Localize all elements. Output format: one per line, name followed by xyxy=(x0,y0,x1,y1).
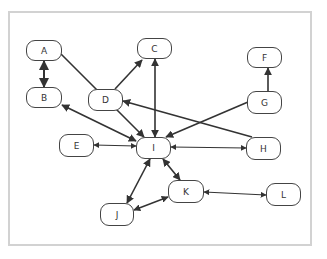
node-b[interactable]: B xyxy=(26,87,62,108)
node-e[interactable]: E xyxy=(59,134,94,157)
node-d[interactable]: D xyxy=(88,89,123,111)
node-label: L xyxy=(281,190,286,200)
edge-i-k xyxy=(163,159,180,180)
node-label: I xyxy=(152,143,155,153)
edge-i-h xyxy=(171,147,246,148)
edge-d-c xyxy=(115,60,142,89)
node-label: C xyxy=(151,44,157,54)
edge-j-k xyxy=(134,197,168,210)
node-label: B xyxy=(41,93,47,103)
node-g[interactable]: G xyxy=(247,91,282,114)
node-c[interactable]: C xyxy=(137,38,172,59)
node-a[interactable]: A xyxy=(26,40,62,61)
node-label: J xyxy=(116,210,119,220)
edge-e-i xyxy=(94,145,136,146)
edge-h-d xyxy=(123,101,252,137)
edge-group xyxy=(44,54,268,210)
node-label: G xyxy=(261,98,268,108)
node-label: F xyxy=(262,53,267,63)
node-f[interactable]: F xyxy=(247,47,282,68)
edge-k-l xyxy=(204,192,266,195)
node-i[interactable]: I xyxy=(136,137,171,159)
node-label: E xyxy=(74,141,80,151)
node-label: H xyxy=(260,144,267,154)
node-label: D xyxy=(102,95,109,105)
node-label: A xyxy=(41,46,47,56)
node-h[interactable]: H xyxy=(246,137,281,160)
node-l[interactable]: L xyxy=(266,183,301,206)
edge-i-j xyxy=(127,159,150,203)
node-k[interactable]: K xyxy=(168,180,204,203)
node-label: K xyxy=(183,187,189,197)
node-j[interactable]: J xyxy=(100,203,134,226)
